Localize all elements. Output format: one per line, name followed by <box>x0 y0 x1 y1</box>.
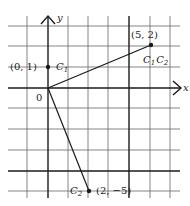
point-5-2-name: C1C2 <box>143 54 169 67</box>
point-0-1 <box>46 65 50 69</box>
point-0-1-name: C1 <box>56 61 68 74</box>
heavy-grid-lines <box>8 16 180 198</box>
y-axis-label: y <box>56 12 63 23</box>
point-0-1-coord: (0, 1) <box>10 61 37 72</box>
point-5-2-coord: (5, 2) <box>131 29 158 40</box>
x-axis-label: x <box>183 82 189 93</box>
point-2-neg5 <box>87 189 91 193</box>
vector-diagram: y x 0 (0, 1) C1 (5, 2) C1C2 C2 (2, −5) <box>0 0 190 206</box>
point-5-2 <box>149 43 153 47</box>
point-2-neg5-name: C2 <box>70 185 83 198</box>
vector-to-2-neg5 <box>48 88 89 191</box>
point-2-neg5-coord: (2, −5) <box>96 185 131 196</box>
origin-label: 0 <box>36 92 42 103</box>
